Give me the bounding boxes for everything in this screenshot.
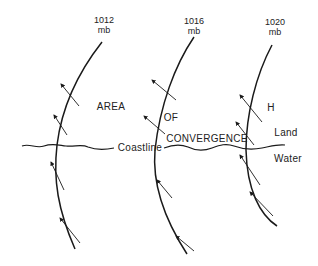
wind-arrow-icon (60, 218, 80, 243)
water-label: Water (274, 153, 302, 164)
convergence-diagram: 1012 mb 1016 mb 1020 mb Coastline AREA O… (0, 0, 318, 266)
isobar-1016-value: 1016 (184, 16, 204, 26)
coastline-label: Coastline (118, 142, 163, 153)
isobar-label-1012: 1012 mb (94, 15, 114, 35)
wind-arrow-icon (61, 84, 79, 106)
wind-arrow-icon (250, 192, 273, 216)
isobar-1012-value: 1012 (94, 15, 114, 25)
wind-arrow-icon (152, 80, 176, 100)
wind-arrow-icon (144, 116, 165, 134)
wind-arrow-icon (240, 95, 262, 122)
convergence-label: CONVERGENCE (166, 133, 248, 144)
land-label: Land (274, 127, 297, 138)
wind-arrows-1016 (144, 80, 194, 251)
isobar-1016-unit: mb (188, 26, 201, 36)
coastline-line (22, 144, 114, 149)
coastline-line-east (164, 145, 285, 151)
isobar-1020-value: 1020 (265, 17, 285, 27)
isobar-1012-unit: mb (98, 25, 111, 35)
isobar-label-1020: 1020 mb (265, 17, 285, 37)
high-pressure-label: H (267, 102, 275, 113)
wind-arrow-icon (54, 115, 67, 135)
isobar-1020-line (246, 45, 277, 226)
of-label: OF (164, 112, 179, 123)
area-label: AREA (97, 101, 125, 112)
isobar-label-1016: 1016 mb (184, 16, 204, 36)
wind-arrow-icon (176, 236, 194, 251)
isobar-1020-unit: mb (269, 27, 282, 37)
